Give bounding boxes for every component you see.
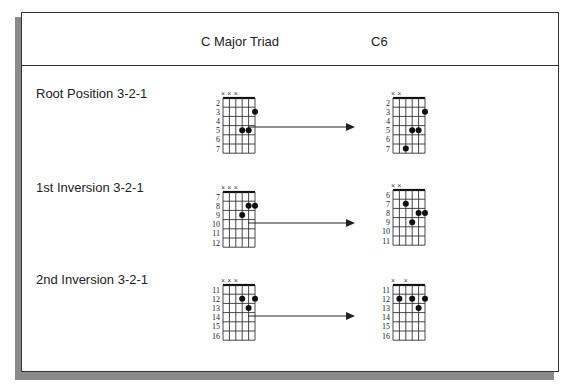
svg-text:8: 8: [386, 209, 390, 218]
svg-text:×: ×: [227, 277, 231, 284]
svg-text:12: 12: [212, 295, 220, 304]
svg-text:×: ×: [221, 184, 225, 191]
arrow-icon: [248, 218, 358, 228]
svg-text:11: 11: [382, 286, 390, 295]
svg-text:13: 13: [212, 304, 220, 313]
column-header-triad: C Major Triad: [201, 34, 279, 49]
chord-diagram: ××234567: [372, 88, 432, 158]
svg-text:×: ×: [391, 182, 395, 189]
svg-text:11: 11: [212, 229, 220, 238]
chord-diagram: ×××111213141516: [202, 275, 262, 345]
row-label-second-inversion: 2nd Inversion 3-2-1: [36, 272, 148, 287]
svg-text:6: 6: [386, 191, 390, 200]
svg-text:×: ×: [227, 184, 231, 191]
svg-text:6: 6: [216, 135, 220, 144]
svg-text:16: 16: [212, 332, 220, 341]
svg-text:2: 2: [386, 99, 390, 108]
svg-text:14: 14: [382, 313, 390, 322]
svg-text:14: 14: [212, 313, 220, 322]
svg-text:11: 11: [212, 286, 220, 295]
svg-text:8: 8: [216, 202, 220, 211]
svg-text:×: ×: [234, 184, 238, 191]
svg-text:5: 5: [386, 126, 390, 135]
svg-text:7: 7: [216, 193, 220, 202]
svg-text:13: 13: [382, 304, 390, 313]
svg-text:×: ×: [397, 90, 401, 97]
svg-text:×: ×: [234, 90, 238, 97]
svg-text:15: 15: [212, 322, 220, 331]
svg-text:7: 7: [216, 145, 220, 154]
svg-text:3: 3: [386, 108, 390, 117]
svg-text:×: ×: [221, 277, 225, 284]
svg-text:×: ×: [221, 90, 225, 97]
arrow-icon: [248, 311, 358, 321]
svg-text:4: 4: [216, 117, 220, 126]
svg-text:7: 7: [386, 200, 390, 209]
svg-text:2: 2: [216, 99, 220, 108]
chord-table: C Major Triad C6 Root Position 3-2-1 1st…: [21, 12, 559, 372]
svg-text:15: 15: [382, 322, 390, 331]
column-header-c6: C6: [371, 34, 388, 49]
svg-text:10: 10: [212, 220, 220, 229]
row-label-root: Root Position 3-2-1: [36, 86, 147, 101]
svg-text:×: ×: [397, 182, 401, 189]
chord-diagram: ××67891011: [372, 180, 432, 250]
svg-text:16: 16: [382, 332, 390, 341]
svg-text:3: 3: [216, 108, 220, 117]
svg-text:10: 10: [382, 227, 390, 236]
svg-text:12: 12: [212, 239, 220, 248]
svg-text:12: 12: [382, 295, 390, 304]
svg-text:9: 9: [216, 211, 220, 220]
svg-text:×: ×: [404, 277, 408, 284]
header-divider: [22, 65, 558, 66]
row-label-first-inversion: 1st Inversion 3-2-1: [36, 180, 144, 195]
svg-text:4: 4: [386, 117, 390, 126]
arrow-icon: [248, 122, 358, 132]
svg-text:5: 5: [216, 126, 220, 135]
chord-diagram: ××111213141516: [372, 275, 432, 345]
svg-text:×: ×: [391, 277, 395, 284]
chord-diagram: ×××789101112: [202, 182, 262, 252]
svg-text:×: ×: [227, 90, 231, 97]
svg-text:×: ×: [234, 277, 238, 284]
svg-text:6: 6: [386, 135, 390, 144]
svg-text:11: 11: [382, 237, 390, 246]
svg-text:×: ×: [391, 90, 395, 97]
svg-text:7: 7: [386, 145, 390, 154]
svg-text:9: 9: [386, 218, 390, 227]
